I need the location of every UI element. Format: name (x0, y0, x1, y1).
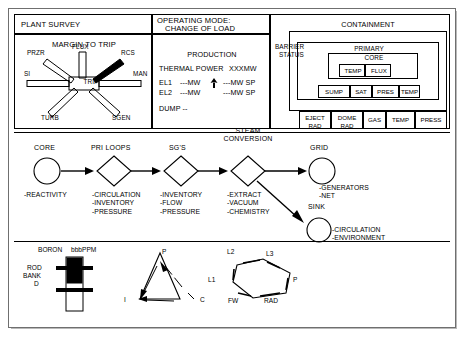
eject-rad-line1: EJECT (300, 114, 330, 122)
spoke-label-si: SI (24, 71, 30, 78)
eject-rad-line2: RAD (300, 122, 330, 130)
flow-bullets-steam: -EXTRACT -VACUUM -CHEMISTRY (227, 191, 270, 216)
primary-sump-indicator[interactable]: SUMP (318, 85, 350, 98)
primary-title: PRIMARY (298, 46, 440, 53)
production-title: PRODUCTION (153, 51, 271, 59)
flow-title-core: CORE (34, 144, 55, 151)
triangle-vertex-i: I (124, 297, 126, 304)
plant-survey-title: PLANT SURVEY (21, 21, 80, 29)
panel-plant-survey: MARGIN TO TRIP TRIP PRZR FLUX RCS MAN SG… (14, 34, 152, 129)
hexagon-vertex-p: P (293, 277, 297, 284)
dome-rad-line1: DOME (332, 114, 362, 122)
spoke-label-sgen: SGEN (112, 115, 131, 122)
hexagon-vertex-l2: L2 (227, 249, 234, 256)
core-temp-indicator[interactable]: TEMP (339, 64, 365, 77)
flow-title-grid: GRID (310, 144, 328, 151)
flow-title-steam-line2: CONVERSION (218, 135, 278, 142)
panel-production: PRODUCTION THERMAL POWER XXXMW EL1 ---MW… (152, 34, 270, 129)
spoke-label-flux: FLUX (72, 44, 89, 51)
primary-sat-indicator[interactable]: SAT (350, 85, 372, 98)
trip-center-label: TRIP (76, 79, 106, 86)
flow-bullets-core: -REACTIVITY (24, 191, 67, 199)
operating-mode-value[interactable]: CHANGE OF LOAD (165, 25, 235, 33)
flow-title-pri-loops: PRI LOOPS (91, 144, 131, 151)
el1-setpoint: ---MW SP (223, 79, 255, 87)
triangle-vertex-c: C (200, 297, 205, 304)
core-flux-indicator[interactable]: FLUX (365, 64, 391, 77)
el2-label: EL2 (159, 89, 172, 97)
panel-safety-function-flow: CORE PRI LOOPS SG'S STEAM CONVERSION GRI… (14, 133, 450, 241)
flow-diagram-graphics (14, 133, 450, 241)
el2-setpoint: ---MW SP (223, 89, 255, 97)
containment-press-indicator[interactable]: PRESS (415, 111, 447, 129)
plant-survey-screen: PLANT SURVEY OPERATING MODE: CHANGE OF L… (0, 0, 468, 337)
rod-bank-position-indicator[interactable] (14, 241, 134, 321)
core-flux-label: FLUX (366, 68, 392, 75)
core-temp-label: TEMP (340, 68, 366, 75)
hexagon-vertex-l3: L3 (266, 251, 273, 258)
primary-pres-indicator[interactable]: PRES (372, 85, 399, 98)
containment-gas-indicator[interactable]: GAS (363, 111, 386, 129)
spoke-label-przr: PRZR (27, 50, 45, 57)
containment-dome-rad-indicator[interactable]: DOME RAD (331, 111, 363, 129)
panel-bottom-indicators: BORON bbbPPM ROD BANK D P I C (14, 241, 450, 321)
flow-title-steam-line1: STEAM (231, 127, 265, 134)
el1-label: EL1 (159, 79, 172, 87)
triangle-vertex-p: P (162, 249, 166, 256)
el1-value: ---MW (180, 79, 200, 87)
dome-rad-line2: RAD (332, 122, 362, 130)
flow-title-sgs: SG'S (169, 144, 186, 151)
spoke-label-man: MAN (133, 71, 148, 78)
flow-bullets-sgs: -INVENTORY -FLOW -PRESSURE (160, 191, 202, 216)
header-plant-survey: PLANT SURVEY (14, 14, 152, 34)
flow-bullets-pri-loops: -CIRCULATION -INVENTORY -PRESSURE (92, 191, 140, 216)
thermal-power-value: XXXMW (229, 65, 257, 73)
containment-temp-indicator[interactable]: TEMP (386, 111, 415, 129)
hexagon-vertex-rad: RAD (264, 298, 278, 305)
thermal-power-label: THERMAL POWER (159, 65, 224, 73)
el2-value: ---MW (180, 89, 200, 97)
hexagon-vertex-l1: L1 (208, 277, 215, 284)
dump-label: DUMP -- (159, 105, 188, 113)
el1-trend-up-icon (210, 78, 218, 88)
flow-bullets-grid: -GENERATORS -NET (319, 184, 369, 201)
header-operating-mode: OPERATING MODE: CHANGE OF LOAD (152, 14, 270, 34)
hexagon-vertex-fw: FW (228, 298, 238, 305)
spoke-label-turb: TURB (41, 115, 59, 122)
containment-eject-rad-indicator[interactable]: EJECT RAD (299, 111, 331, 129)
primary-inv-indicator[interactable]: TEMP (399, 85, 420, 98)
containment-title: CONTAINMENT (289, 21, 447, 29)
core-title: CORE (329, 55, 419, 62)
flow-title-sink: SINK (308, 203, 325, 210)
spoke-label-rcs: RCS (121, 50, 135, 57)
